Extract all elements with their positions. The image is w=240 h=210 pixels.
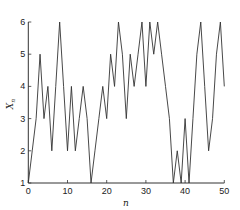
line-chart: 01020304050 123456 n Xn bbox=[0, 0, 240, 210]
x-tick-label: 20 bbox=[102, 186, 112, 196]
x-axis-label: n bbox=[123, 198, 129, 208]
svg-text:Xn: Xn bbox=[5, 99, 16, 110]
x-tick-label: 40 bbox=[180, 186, 190, 196]
x-ticks: 01020304050 bbox=[26, 180, 230, 196]
x-tick-label: 30 bbox=[141, 186, 151, 196]
x-tick-label: 10 bbox=[62, 186, 72, 196]
y-axis-label-subscript: n bbox=[9, 99, 16, 103]
y-tick-label: 1 bbox=[20, 178, 25, 188]
y-tick-label: 6 bbox=[20, 17, 25, 27]
y-tick-label: 3 bbox=[20, 114, 25, 124]
y-ticks: 123456 bbox=[20, 17, 31, 188]
y-axis-label: Xn bbox=[5, 99, 16, 110]
series-line-xn bbox=[28, 22, 224, 183]
x-tick-label: 0 bbox=[26, 186, 31, 196]
x-tick-label: 50 bbox=[219, 186, 229, 196]
y-tick-label: 4 bbox=[20, 81, 25, 91]
y-tick-label: 2 bbox=[20, 146, 25, 156]
y-tick-label: 5 bbox=[20, 49, 25, 59]
axes bbox=[28, 22, 224, 183]
